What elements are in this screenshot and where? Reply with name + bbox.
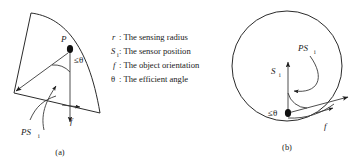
panel-b-sensing-circle [232,11,342,121]
svg-text:S: S [271,66,276,76]
panel-b-vector-label: PS i [297,43,316,55]
panel-b-caption: (b) [282,143,292,152]
svg-text:: The sensor position: : The sensor position [119,46,191,56]
svg-text:PS: PS [297,43,308,53]
svg-text:i: i [279,72,281,78]
legend-item-1: S i : The sensor position [111,46,191,58]
sector-shape [14,13,100,113]
svg-text:i: i [38,133,40,139]
panel-b-angle-label: ≤θ [268,108,277,118]
panel-b-orientation-label: f [324,121,328,131]
panel-a-orientation-label: f [70,116,74,126]
panel-b-sensor-label: S i [271,66,281,78]
panel-a-vector-leader [43,86,56,130]
svg-text:: The efficient angle: : The efficient angle [119,74,188,84]
panel-b-vector-curve [294,56,318,91]
svg-text:f: f [113,60,117,70]
panel-a-angle-label: ≤θ [74,55,83,65]
svg-text:i: i [314,49,316,55]
legend: r : The sensing radius S i : The sensor … [111,32,200,84]
panel-a-point-label: P [60,34,67,44]
legend-item-3: θ : The efficient angle [111,74,188,84]
panel-b: S i ≤θ PS i f (b) [232,11,348,152]
panel-a: P ≤θ f PS i (a) [14,13,100,157]
svg-text:S: S [111,46,116,56]
panel-a-vector-label: PS i [20,127,40,139]
legend-item-0: r : The sensing radius [112,32,188,42]
svg-text:PS: PS [20,127,31,137]
panel-a-angle-arc [52,65,70,72]
svg-text:θ: θ [111,74,115,84]
panel-a-vector-ps [16,53,68,91]
legend-item-2: f : The object orientation [113,60,200,70]
panel-b-sensor-dot [285,109,291,117]
svg-text:r: r [112,32,116,42]
svg-text:: The sensing radius: : The sensing radius [119,32,188,42]
panel-a-point-dot [67,45,73,53]
panel-b-angle-arc [288,93,307,108]
sensor-coverage-figure: P ≤θ f PS i (a) r : The sensing radius S… [0,0,360,165]
panel-a-caption: (a) [55,148,65,157]
svg-text:: The object orientation: : The object orientation [119,60,200,70]
